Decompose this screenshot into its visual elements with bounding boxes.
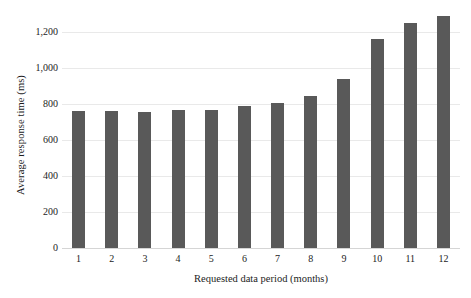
bar <box>138 112 151 248</box>
y-axis-tick-label: 800 <box>20 99 58 109</box>
plot-area <box>62 14 460 248</box>
x-axis-tick-label: 6 <box>228 252 261 266</box>
bar <box>72 111 85 248</box>
x-axis-tick-label: 10 <box>361 252 394 266</box>
y-axis-tick-label: 1,000 <box>20 63 58 73</box>
x-axis-tick-label: 11 <box>394 252 427 266</box>
y-axis-tick-label: 200 <box>20 207 58 217</box>
x-axis-tick-label: 8 <box>294 252 327 266</box>
bar-slot <box>327 14 360 248</box>
bar <box>404 23 417 248</box>
x-axis-tick-label: 3 <box>128 252 161 266</box>
bar <box>304 96 317 248</box>
y-axis-tick-label: 400 <box>20 171 58 181</box>
bar <box>172 110 185 248</box>
bar-slot <box>128 14 161 248</box>
bar-slot <box>95 14 128 248</box>
bar <box>238 106 251 248</box>
bar-slot <box>62 14 95 248</box>
bar <box>371 39 384 248</box>
y-axis-tick-label: 1,200 <box>20 27 58 37</box>
bar-slot <box>427 14 460 248</box>
bar-slot <box>294 14 327 248</box>
bar-series <box>62 14 460 248</box>
bar-slot <box>394 14 427 248</box>
x-axis-tick-label: 2 <box>95 252 128 266</box>
x-axis-tick-label: 1 <box>62 252 95 266</box>
bar <box>105 111 118 248</box>
bar-chart: Average response time (ms) 0200400600800… <box>0 0 471 298</box>
x-axis-tick-label: 4 <box>162 252 195 266</box>
y-axis-tick-labels: 02004006008001,0001,200 <box>20 0 58 298</box>
x-axis-tick-label: 7 <box>261 252 294 266</box>
bar-slot <box>228 14 261 248</box>
y-axis-tick-label: 0 <box>20 243 58 253</box>
x-axis-tick-labels: 123456789101112 <box>62 252 460 266</box>
y-axis-tick-label: 600 <box>20 135 58 145</box>
bar <box>337 79 350 248</box>
bar-slot <box>162 14 195 248</box>
axis-baseline <box>62 248 460 249</box>
x-axis-tick-label: 9 <box>327 252 360 266</box>
x-axis-tick-label: 12 <box>427 252 460 266</box>
bar-slot <box>261 14 294 248</box>
bar <box>271 103 284 248</box>
x-axis-title: Requested data period (months) <box>62 272 460 285</box>
bar <box>205 110 218 248</box>
bar-slot <box>361 14 394 248</box>
x-axis-tick-label: 5 <box>195 252 228 266</box>
bar-slot <box>195 14 228 248</box>
bar <box>437 16 450 248</box>
